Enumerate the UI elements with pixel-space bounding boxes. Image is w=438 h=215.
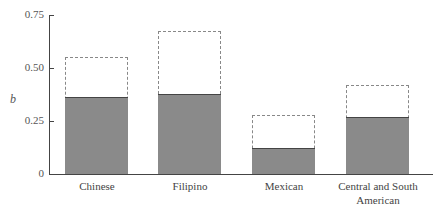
category-label-chinese: Chinese [56, 179, 138, 193]
category-label-mexican: Mexican [243, 179, 325, 193]
y-tick-label: 0.50 [4, 61, 44, 73]
category-label-central-south-american-line2: American [327, 193, 429, 207]
bar-part-filipino [158, 94, 221, 174]
y-tick-label: 0.25 [4, 114, 44, 126]
y-tick [49, 15, 54, 16]
y-axis-label: b [10, 92, 16, 107]
bar-part-central-south-american [346, 117, 409, 174]
y-tick [49, 121, 54, 122]
x-axis [49, 174, 433, 175]
category-label-central-south-american-line1: Central and South [327, 179, 429, 193]
y-tick-label: 0.75 [4, 8, 44, 20]
y-axis [49, 15, 50, 174]
y-tick-label: 0 [4, 167, 44, 179]
bar-part-chinese [65, 97, 128, 174]
category-label-filipino: Filipino [149, 179, 231, 193]
bar-part-mexican [252, 148, 315, 174]
y-tick [49, 68, 54, 69]
